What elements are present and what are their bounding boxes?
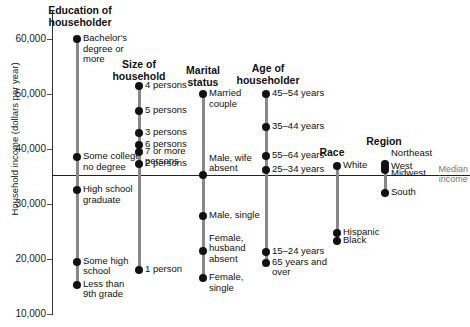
y-tick-label: 40,000	[2, 143, 46, 154]
y-tick-label: 60,000	[2, 33, 46, 44]
range-stem	[76, 39, 79, 285]
group-title: Race	[310, 146, 354, 158]
point-label: Male, wifeabsent	[209, 153, 252, 174]
data-point	[73, 35, 81, 43]
point-label: 2 persons	[145, 158, 187, 169]
y-tick-label: 10,000	[2, 308, 46, 319]
data-point	[381, 166, 389, 174]
data-point	[135, 107, 143, 115]
data-point	[73, 153, 81, 161]
data-point	[333, 162, 341, 170]
median-label: Median income	[438, 164, 468, 184]
y-tick-mark	[47, 314, 52, 315]
group-title: Maritalstatus	[170, 64, 236, 88]
point-label: 1 person	[145, 264, 182, 275]
point-label: South	[391, 187, 416, 198]
point-label: Less than9th grade	[83, 279, 124, 300]
y-tick-mark	[47, 259, 52, 260]
data-point	[199, 274, 207, 282]
data-point	[262, 248, 270, 256]
y-tick-label: 20,000	[2, 253, 46, 264]
chart: Household income (dollars per year) 10,0…	[0, 0, 470, 327]
data-point	[135, 160, 143, 168]
group-title: Age ofhouseholder	[230, 62, 306, 86]
y-tick-label: 50,000	[2, 88, 46, 99]
y-tick-mark	[47, 94, 52, 95]
y-tick-mark	[47, 39, 52, 40]
point-label: Female,husbandabsent	[209, 233, 245, 265]
range-stem	[265, 94, 268, 263]
point-label: 5 persons	[145, 105, 187, 116]
y-tick-mark	[47, 204, 52, 205]
point-label: Black	[343, 235, 366, 246]
data-point	[262, 259, 270, 267]
point-label: Midwest	[391, 168, 426, 179]
group-title: Education ofhouseholder	[40, 4, 120, 28]
median-label-line1: Median	[438, 164, 468, 174]
point-label: Marriedcouple	[209, 88, 241, 109]
point-label: 45–54 years	[272, 88, 324, 99]
data-point	[262, 166, 270, 174]
data-point	[73, 281, 81, 289]
data-point	[262, 90, 270, 98]
data-point	[262, 152, 270, 160]
y-axis	[52, 10, 53, 315]
data-point	[73, 258, 81, 266]
data-point	[199, 171, 207, 179]
point-label: Some highschool	[83, 256, 128, 277]
data-point	[135, 82, 143, 90]
y-tick-label: 30,000	[2, 198, 46, 209]
point-label: Northeast	[391, 148, 432, 159]
data-point	[135, 266, 143, 274]
point-label: 65 years andover	[272, 257, 327, 278]
data-point	[135, 148, 143, 156]
point-label: 35–44 years	[272, 121, 324, 132]
data-point	[333, 229, 341, 237]
data-point	[381, 189, 389, 197]
point-label: Male, single	[209, 210, 260, 221]
data-point	[199, 90, 207, 98]
point-label: White	[343, 160, 367, 171]
median-label-line2: income	[438, 174, 468, 184]
data-point	[333, 237, 341, 245]
data-point	[73, 186, 81, 194]
point-label: Some collegeno degree	[83, 151, 141, 172]
group-title: Region	[356, 135, 412, 147]
point-label: High schoolgraduate	[83, 184, 133, 205]
data-point	[199, 247, 207, 255]
point-label: 25–34 years	[272, 164, 324, 175]
y-tick-mark	[47, 149, 52, 150]
point-label: Female,single	[209, 272, 243, 293]
data-point	[262, 123, 270, 131]
data-point	[199, 212, 207, 220]
data-point	[135, 129, 143, 137]
point-label: 3 persons	[145, 127, 187, 138]
